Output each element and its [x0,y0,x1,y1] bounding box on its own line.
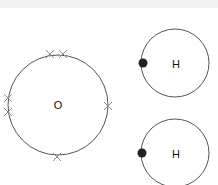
atom-hydrogen-1: H [139,29,210,97]
hydrogen-label: H [172,148,180,160]
atom-hydrogen-2: H [138,119,210,185]
oxygen-label: O [54,99,63,111]
hydrogen-label: H [172,58,180,70]
electron-cross-icon [46,50,54,58]
electron-dot-icon [138,149,147,158]
water-dot-cross-diagram: O H H [0,0,218,185]
electron-cross-icon [59,50,67,58]
electron-cross-icon [53,153,61,161]
atom-oxygen: O [4,50,112,161]
electron-dot-icon [139,59,148,68]
